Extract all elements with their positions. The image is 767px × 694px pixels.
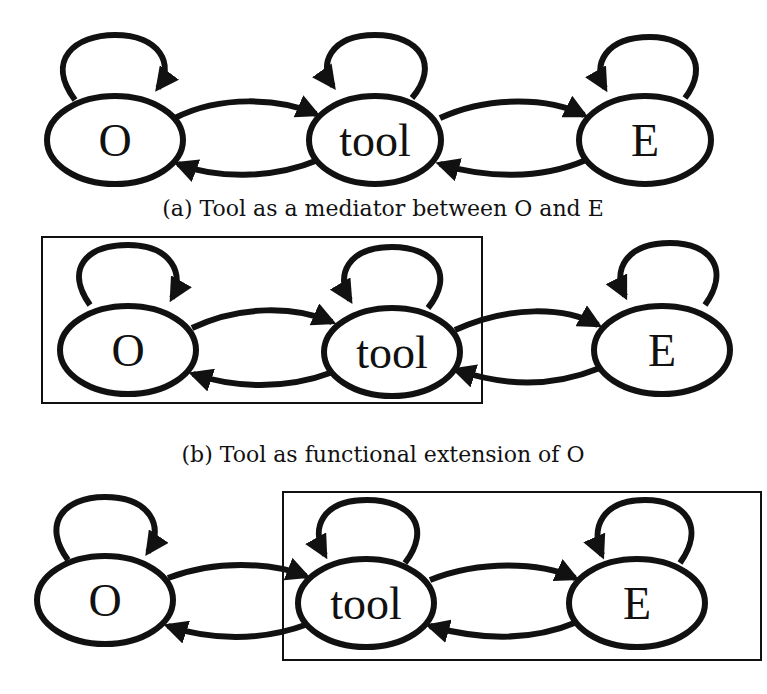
node-o-label: O <box>98 115 131 166</box>
edge-e-self-loop <box>620 243 716 305</box>
panel-a: O tool E (a) Tool as a mediator between … <box>47 35 711 221</box>
edge-tool-self-loop <box>327 35 425 98</box>
node-e-label: E <box>623 578 651 629</box>
node-tool-label: tool <box>330 578 402 629</box>
panel-b: O tool E (b) Tool as functional extensio… <box>42 237 730 467</box>
edge-o-self-loop <box>79 245 177 305</box>
edge-e-self-loop <box>600 37 696 98</box>
node-o-label: O <box>111 325 144 376</box>
node-e-label: E <box>648 325 676 376</box>
edge-o-self-loop <box>63 35 165 100</box>
edge-tool-to-e <box>430 566 575 581</box>
diagram-canvas: O tool E (a) Tool as a mediator between … <box>0 0 767 694</box>
edge-tool-to-o <box>168 624 308 637</box>
edge-tool-to-o <box>193 372 333 385</box>
node-o-label: O <box>88 575 121 626</box>
caption-b: (b) Tool as functional extension of O <box>182 442 585 467</box>
caption-a: (a) Tool as a mediator between O and E <box>162 196 603 221</box>
edge-tool-to-o <box>178 160 318 175</box>
edge-tool-to-e <box>455 311 598 330</box>
node-tool-label: tool <box>356 327 428 378</box>
edge-tool-self-loop <box>344 247 440 308</box>
edge-tool-to-e <box>440 102 584 119</box>
edge-o-self-loop <box>56 497 154 560</box>
edge-e-to-tool <box>440 160 586 175</box>
edge-e-to-tool <box>456 368 600 383</box>
edge-e-self-loop <box>598 500 692 563</box>
node-tool-label: tool <box>339 115 411 166</box>
edge-tool-self-loop <box>319 500 417 563</box>
node-e-label: E <box>631 115 659 166</box>
edge-o-to-tool <box>175 101 316 118</box>
edge-o-to-tool <box>192 310 332 328</box>
panel-c: O tool E <box>37 492 761 660</box>
edge-e-to-tool <box>430 622 577 637</box>
edge-o-to-tool <box>168 565 306 578</box>
